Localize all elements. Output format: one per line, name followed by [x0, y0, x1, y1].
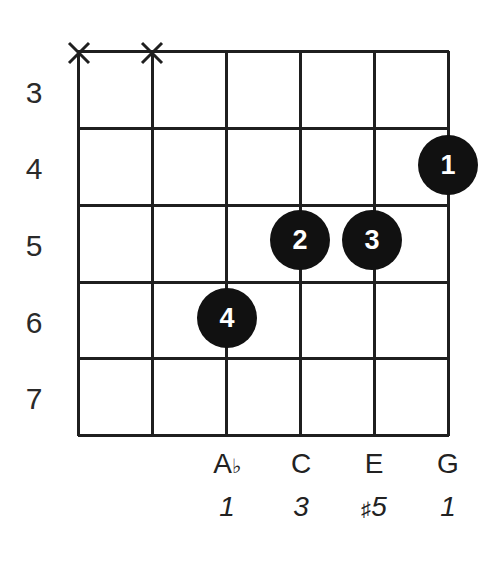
fret-number: 5 — [22, 231, 46, 261]
string-line-2 — [151, 51, 154, 436]
note-label: E — [344, 450, 404, 478]
fret-line — [78, 281, 449, 284]
string-line-1 — [77, 51, 80, 436]
fret-line — [78, 357, 449, 360]
note-label: A♭ — [197, 450, 257, 478]
finger-dot-4: 4 — [197, 288, 257, 348]
mute-x-icon — [139, 40, 165, 66]
note-label: C — [271, 450, 331, 478]
fret-number: 7 — [22, 384, 46, 414]
mute-x-icon — [66, 40, 92, 66]
nut-line — [78, 50, 449, 53]
chord-diagram: 3 4 5 6 7 1 2 3 4 A♭ C E G 1 3 ♯5 1 — [0, 0, 500, 563]
string-line-6 — [447, 51, 450, 436]
interval-label: 1 — [418, 493, 478, 521]
interval-label: 1 — [197, 493, 257, 521]
interval-label: 3 — [271, 493, 331, 521]
fret-line — [78, 127, 449, 130]
interval-label: ♯5 — [344, 493, 404, 521]
note-label: G — [418, 450, 478, 478]
fret-number: 6 — [22, 308, 46, 338]
fret-number: 4 — [22, 154, 46, 184]
fret-number: 3 — [22, 78, 46, 108]
finger-dot-1: 1 — [418, 135, 478, 195]
finger-dot-3: 3 — [342, 210, 402, 270]
finger-dot-2: 2 — [270, 210, 330, 270]
string-line-3 — [225, 51, 228, 436]
fret-line — [78, 434, 449, 437]
fret-line — [78, 204, 449, 207]
